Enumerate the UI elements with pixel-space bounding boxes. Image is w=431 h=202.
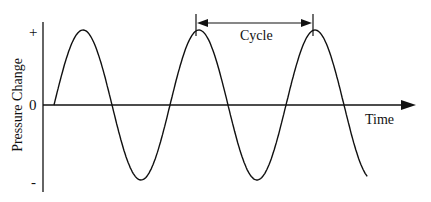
- pressure-wave-diagram: Pressure Change + 0 - Cycle Time: [0, 0, 431, 202]
- y-axis-label: Pressure Change: [10, 55, 26, 155]
- cycle-right-arrow-icon: [301, 19, 312, 27]
- cycle-label: Cycle: [240, 29, 273, 43]
- y-tick-minus: -: [31, 175, 36, 190]
- diagram-canvas: [0, 0, 431, 202]
- x-axis-label: Time: [365, 113, 394, 127]
- y-tick-zero: 0: [29, 98, 37, 113]
- x-axis-arrow-icon: [401, 100, 416, 110]
- cycle-left-arrow-icon: [197, 19, 208, 27]
- y-tick-plus: +: [29, 25, 37, 40]
